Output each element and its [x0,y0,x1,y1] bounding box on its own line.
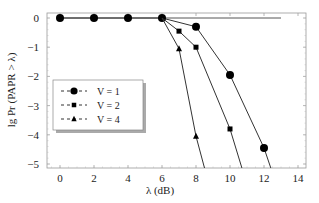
x-tick-label: 10 [225,172,237,184]
circle-marker [56,14,64,22]
y-tick-label: −4 [27,129,39,141]
x-tick-label: 14 [293,172,305,184]
x-tick-label: 0 [57,172,63,184]
y-tick-label: −2 [27,70,39,82]
square-marker [228,126,233,131]
circle-marker [70,87,77,94]
y-tick-label: −1 [27,41,39,53]
x-tick-label: 8 [193,172,199,184]
y-tick-label: −3 [27,100,39,112]
x-tick-label: 2 [91,172,97,184]
circle-marker [226,71,234,79]
circle-marker [124,14,132,22]
circle-marker [192,23,200,31]
y-axis-label: lg Pr (PAPR > λ) [5,52,18,127]
x-axis-label: λ (dB) [146,184,175,197]
x-tick-label: 6 [159,172,165,184]
x-tick-label: 4 [125,172,131,184]
y-tick-label: 0 [34,12,40,24]
legend-label: V = 1 [97,86,120,97]
y-tick-label: −5 [27,158,39,170]
square-marker [177,29,182,34]
legend-label: V = 2 [97,100,120,111]
square-marker [194,45,199,50]
legend: V = 1V = 2V = 4 [53,80,146,133]
papr-chart: 024681012140−1−2−3−4−5 V = 1V = 2V = 4 λ… [0,0,319,203]
legend-label: V = 4 [97,114,120,125]
x-tick-label: 12 [259,172,270,184]
square-marker [72,103,77,108]
circle-marker [90,14,98,22]
circle-marker [260,144,268,152]
